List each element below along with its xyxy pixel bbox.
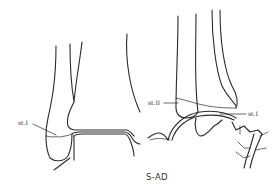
label-st-i-ap: st.I <box>18 120 28 126</box>
label-st-ii-lateral: st.II <box>148 100 160 106</box>
ankle-fracture-diagram <box>0 0 279 195</box>
lateral-view-drawing <box>148 10 268 168</box>
figure-caption: S-AD <box>146 172 168 182</box>
ap-view-drawing <box>33 34 140 170</box>
label-st-i-lateral: st.I <box>248 111 258 117</box>
